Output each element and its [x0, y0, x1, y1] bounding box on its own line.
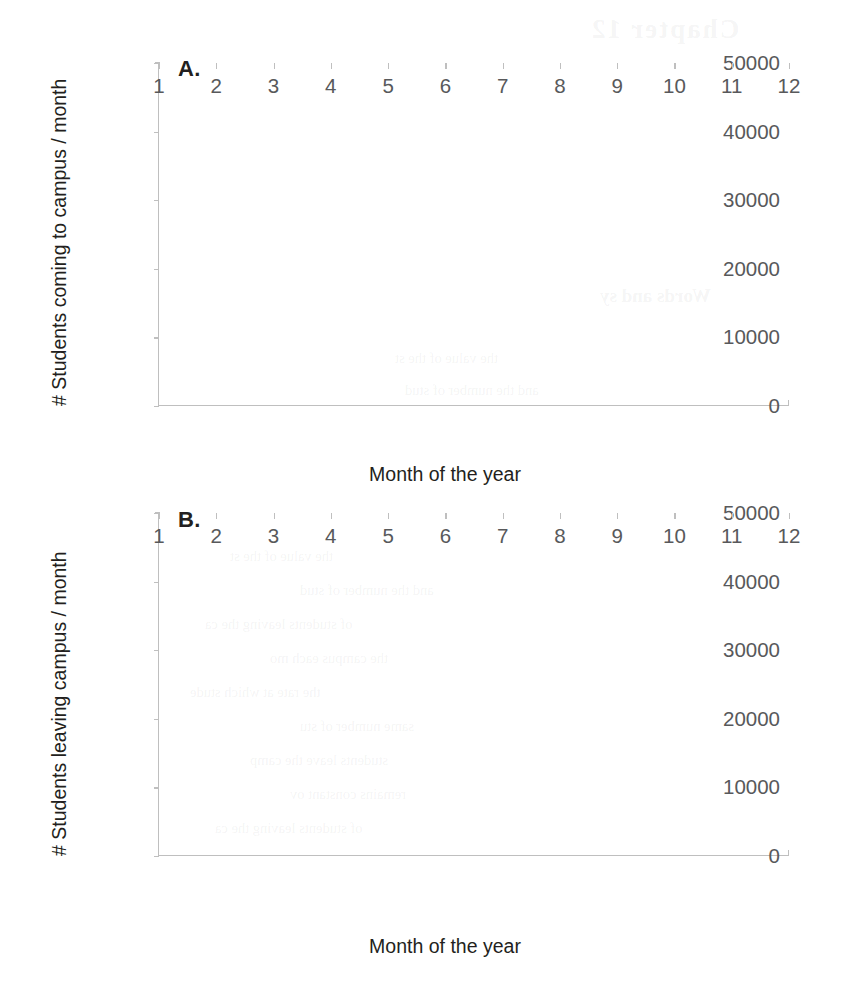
plot-area-a [159, 63, 788, 405]
x-tick-label-a: 1 [153, 74, 164, 98]
x-tick-b [732, 513, 733, 519]
x-tick-a [732, 63, 733, 69]
x-tick-label-a: 9 [611, 74, 622, 98]
x-tick-a [674, 63, 675, 69]
x-tick-label-b: 6 [440, 524, 451, 548]
y-tick-a [154, 200, 159, 201]
x-tick-b [216, 513, 217, 519]
plot-frame-b: 50000 40000 30000 20000 10000 0 1 2 3 4 … [158, 513, 788, 856]
x-tick-label-b: 7 [497, 524, 508, 548]
x-tick-label-a: 5 [382, 74, 393, 98]
y-tick-label-b: 20000 [723, 707, 780, 731]
y-tick-label-a: 20000 [723, 257, 780, 281]
x-tick-label-a: 6 [440, 74, 451, 98]
x-tick-label-b: 10 [663, 524, 686, 548]
y-tick-a [154, 337, 159, 338]
x-tick-b [331, 513, 332, 519]
x-tick-label-a: 8 [554, 74, 565, 98]
x-axis-label-b: Month of the year [369, 935, 521, 958]
y-tick-label-a: 10000 [723, 325, 780, 349]
x-tick-b [388, 513, 389, 519]
x-tick-a [388, 63, 389, 69]
x-axis-label-a: Month of the year [369, 463, 521, 486]
panel-label-a: A. [178, 56, 201, 82]
x-tick-label-b: 12 [778, 524, 801, 548]
x-tick-a [331, 63, 332, 69]
y-tick-b [154, 650, 159, 651]
y-tick-b [154, 787, 159, 788]
x-tick-b [503, 513, 504, 519]
x-tick-a [445, 63, 446, 69]
x-tick-label-b: 4 [325, 524, 336, 548]
x-tick-a [503, 63, 504, 69]
x-tick-a [560, 63, 561, 69]
x-tick-label-b: 2 [211, 524, 222, 548]
y-tick-label-b: 40000 [723, 570, 780, 594]
x-tick-label-b: 5 [382, 524, 393, 548]
x-tick-b [445, 513, 446, 519]
y-tick-b [154, 582, 159, 583]
y-tick-label-b: 0 [769, 844, 780, 868]
x-tick-a [617, 63, 618, 69]
x-tick-label-b: 11 [721, 524, 742, 548]
y-axis-label-a: # Students coming to campus / month [48, 79, 71, 406]
x-tick-b [617, 513, 618, 519]
x-tick-label-a: 12 [778, 74, 801, 98]
y-tick-label-a: 0 [769, 394, 780, 418]
x-tick-label-a: 7 [497, 74, 508, 98]
panel-label-b: B. [178, 507, 201, 533]
plot-area-b [159, 513, 788, 855]
x-tick-label-b: 9 [611, 524, 622, 548]
y-tick-a [154, 406, 159, 407]
x-tick-label-a: 10 [663, 74, 686, 98]
y-tick-a [154, 269, 159, 270]
x-tick-a [159, 63, 160, 69]
x-tick-a [216, 63, 217, 69]
x-tick-b [159, 513, 160, 519]
x-tick-label-b: 3 [268, 524, 279, 548]
y-tick-b [154, 719, 159, 720]
x-tick-a [789, 63, 790, 69]
x-tick-label-a: 2 [211, 74, 222, 98]
x-tick-a [274, 63, 275, 69]
y-tick-label-b: 10000 [723, 775, 780, 799]
y-tick-label-b: 30000 [723, 638, 780, 662]
y-tick-b [154, 856, 159, 857]
y-tick-label-a: 40000 [723, 120, 780, 144]
x-tick-label-a: 3 [268, 74, 279, 98]
x-tick-b [674, 513, 675, 519]
x-tick-label-b: 8 [554, 524, 565, 548]
x-tick-label-a: 4 [325, 74, 336, 98]
showthrough-title: Chapter 12 [590, 14, 739, 45]
x-tick-b [789, 513, 790, 519]
plot-frame-a: 50000 40000 30000 20000 10000 0 1 2 3 4 … [158, 63, 788, 406]
y-tick-a [154, 132, 159, 133]
y-tick-label-a: 30000 [723, 188, 780, 212]
x-tick-label-a: 11 [721, 74, 742, 98]
x-tick-b [274, 513, 275, 519]
x-tick-label-b: 1 [153, 524, 164, 548]
y-axis-label-b: # Students leaving campus / month [48, 551, 71, 856]
x-tick-b [560, 513, 561, 519]
